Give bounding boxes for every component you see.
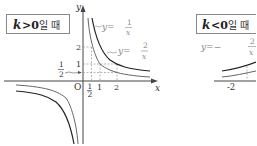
condition-k: k: [202, 18, 210, 32]
y-axis-arrow-icon: [81, 5, 86, 12]
panel-k-positive: k >0 일 때 x y O 1 2 1 2 2 1 1 2: [4, 2, 160, 144]
svg-text:1: 1: [127, 18, 132, 27]
origin-label: O: [74, 82, 81, 92]
svg-text:x: x: [142, 52, 147, 61]
condition-op: <0: [211, 19, 228, 32]
equation-label-y-neg-2-over-x: y=− 2 x: [200, 37, 256, 57]
curve-y-2-over-x-q1: [92, 18, 150, 71]
svg-text:y=−: y=−: [200, 42, 221, 52]
condition-box-k-negative: k <0 일 때: [197, 15, 257, 34]
svg-text:y=: y=: [117, 46, 131, 56]
svg-text:x: x: [249, 48, 254, 57]
pointer-half: [65, 72, 79, 73]
svg-text:2: 2: [250, 37, 255, 46]
panel-k-negative: k <0 일 때 -2 y=− 2 x: [197, 15, 257, 93]
curve-y-1-over-x-q3: [16, 85, 78, 144]
x-tick-1: 1: [97, 83, 102, 92]
y-axis-label: y: [75, 2, 82, 12]
condition-suffix: 일 때: [39, 20, 60, 31]
svg-text:y=: y=: [101, 22, 115, 32]
condition-k: k: [13, 18, 21, 32]
x-tick-half-den: 2: [88, 90, 93, 99]
hyperbola-diagram: k >0 일 때 x y O 1 2 1 2 2 1 1 2: [0, 0, 256, 146]
curve-y-2-over-x-q3: [16, 91, 74, 144]
equation-label-y-2-over-x: y= 2 x: [107, 41, 148, 61]
y-tick-1: 1: [76, 60, 81, 69]
condition-box-k-positive: k >0 일 때: [7, 15, 70, 34]
equation-label-y-1-over-x: y= 1 x: [93, 18, 132, 37]
x-tick-neg-2: -2: [227, 82, 235, 92]
x-axis-label: x: [155, 83, 160, 93]
y-tick-2: 2: [76, 43, 81, 52]
condition-suffix: 일 때: [228, 20, 249, 31]
condition-op: >0: [22, 19, 39, 32]
curve-y-neg-1-over-x: [222, 71, 256, 77]
curve-y-neg-2-over-x: [222, 62, 256, 71]
y-tick-half-den: 2: [59, 70, 64, 79]
y-tick-half-num: 1: [59, 60, 64, 69]
x-tick-2: 2: [114, 83, 119, 92]
svg-text:2: 2: [143, 41, 148, 50]
svg-text:x: x: [126, 28, 131, 37]
